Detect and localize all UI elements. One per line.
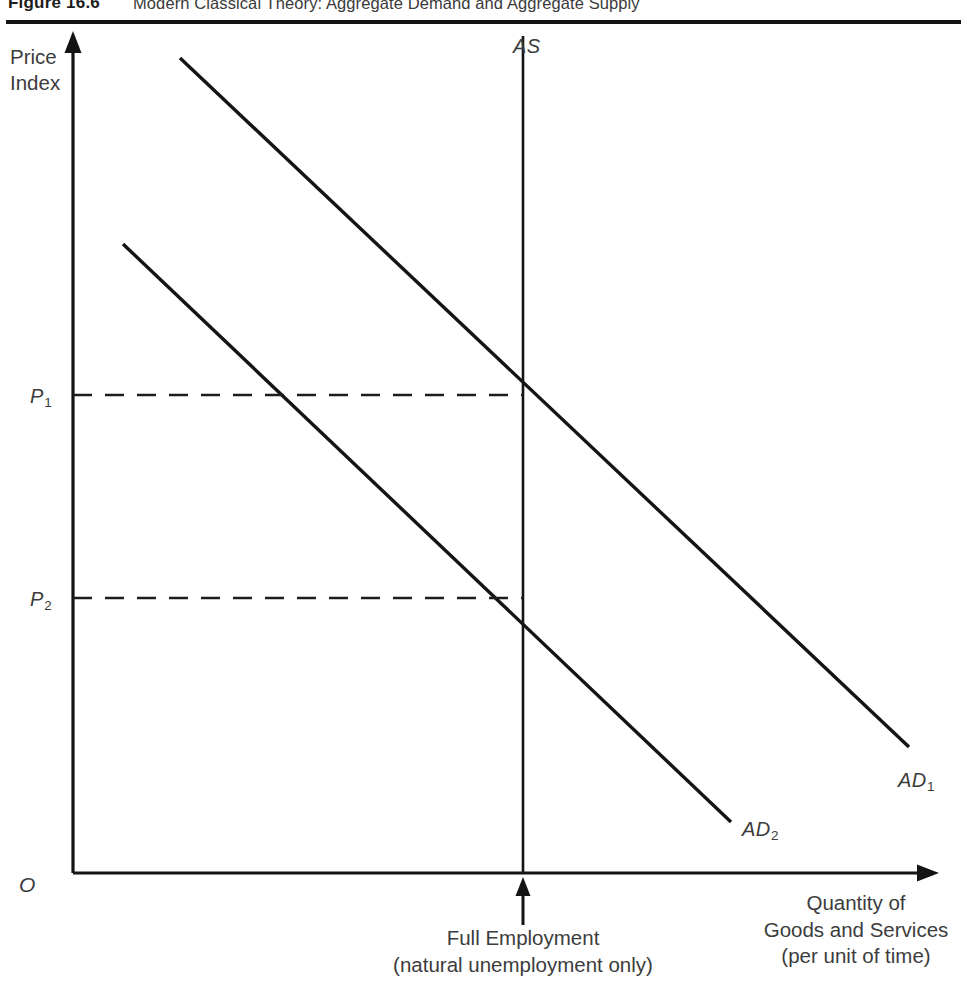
x-axis-label-line2: Goods and Services [764,917,949,944]
x-axis [73,865,939,882]
y-axis [65,31,82,873]
full-employment-annotation: Full Employment (natural unemployment on… [393,925,653,978]
p2-label-subscript: 2 [44,598,52,613]
full-employment-arrow [516,877,531,925]
x-axis-label-line1: Quantity of [764,890,949,917]
ad2-curve-label: AD2 [742,817,778,841]
ad1-label-base: AD [898,769,927,791]
chart-plot-area [0,0,967,984]
origin-label: O [19,872,35,898]
p1-axis-label: P1 [30,384,51,408]
ad2-label-base: AD [742,818,771,840]
x-axis-label-line3: (per unit of time) [764,943,949,970]
chart-svg [0,0,967,984]
as-curve-label: AS [513,34,540,58]
ad2-label-subscript: 2 [771,828,779,843]
ad2-curve [123,244,731,822]
p2-axis-label: P2 [30,587,51,611]
p1-label-subscript: 1 [44,395,52,410]
y-axis-label-line2: Index [10,70,60,96]
ad1-curve-label: AD1 [898,768,934,792]
y-axis-label: Price Index [10,44,60,96]
full-employment-line1: Full Employment [393,925,653,952]
ad1-label-subscript: 1 [927,779,935,794]
p2-label-base: P [30,588,44,610]
y-axis-label-line1: Price [10,44,60,70]
x-axis-label: Quantity of Goods and Services (per unit… [764,890,949,970]
p1-label-base: P [30,385,44,407]
full-employment-line2: (natural unemployment only) [393,952,653,979]
